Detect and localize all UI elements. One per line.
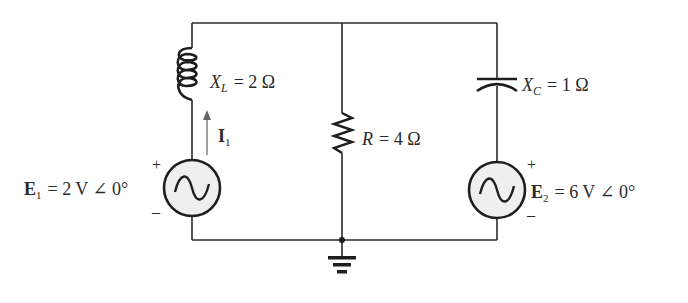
inductor-icon: [178, 48, 197, 100]
capacitor-label: XC= 1 Ω: [521, 75, 589, 98]
source-2-plus: +: [527, 156, 536, 173]
ground-icon: [328, 256, 356, 274]
resistor-icon: [334, 113, 352, 153]
current-label: I1: [218, 126, 231, 148]
source-1-minus: –: [151, 203, 161, 220]
ac-source-2-icon: [469, 162, 525, 218]
ac-source-1-icon: [164, 160, 220, 216]
circuit-diagram: XL= 2 Ω I1 R= 4 Ω XC= 1 Ω + – E1= 2 V ∠ …: [0, 0, 688, 303]
inductor-label: XL= 2 Ω: [209, 72, 275, 95]
ground-node: [339, 237, 345, 243]
source-2-minus: –: [526, 206, 536, 223]
source-1-plus: +: [152, 156, 161, 173]
current-arrow-icon: [203, 110, 211, 155]
source-2-label: E2= 6 V ∠ 0°: [531, 182, 635, 204]
source-1-label: E1= 2 V ∠ 0°: [24, 179, 128, 201]
resistor-label: R= 4 Ω: [361, 129, 421, 149]
